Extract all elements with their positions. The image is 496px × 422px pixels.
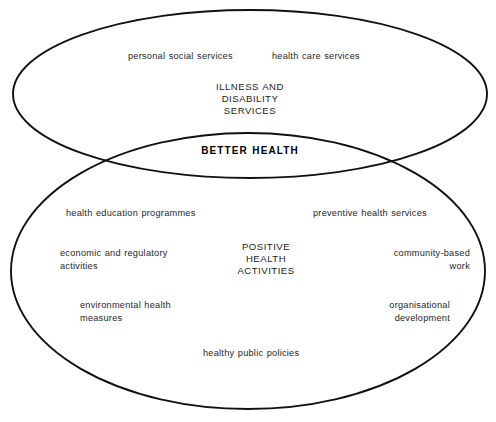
label-economic-and-regulatory-activities: economic and regulatory activities <box>60 247 220 272</box>
heading-better-health: BETTER HEALTH <box>175 145 325 158</box>
label-healthy-public-policies: healthy public policies <box>203 347 363 360</box>
venn-diagram: personal social services health care ser… <box>0 0 496 422</box>
label-health-education-programmes: health education programmes <box>66 207 256 220</box>
label-organisational-development: organisational development <box>320 299 450 324</box>
label-personal-social-services: personal social services <box>128 50 278 63</box>
label-environmental-health-measures: environmental health measures <box>80 299 240 324</box>
label-community-based-work: community-based work <box>330 247 470 272</box>
heading-illness-and-disability-services: ILLNESS AND DISABILITY SERVICES <box>180 81 320 118</box>
label-preventive-health-services: preventive health services <box>313 207 483 220</box>
heading-positive-health-activities: POSITIVE HEALTH ACTIVITIES <box>216 241 316 278</box>
label-health-care-services: health care services <box>272 50 412 63</box>
